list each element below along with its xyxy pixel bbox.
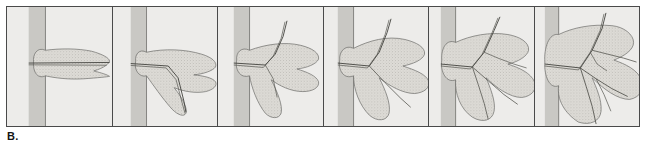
panel-stage-2 bbox=[113, 7, 219, 126]
stage-diagram-3 bbox=[218, 7, 323, 126]
panel-strip bbox=[6, 6, 640, 127]
stage-diagram-1 bbox=[7, 7, 112, 126]
channel-1a bbox=[29, 62, 110, 63]
panel-stage-5 bbox=[429, 7, 535, 126]
figure-container: B. bbox=[0, 0, 652, 153]
panel-stage-1 bbox=[7, 7, 113, 126]
panel-stage-3 bbox=[218, 7, 324, 126]
stage-diagram-6 bbox=[535, 7, 640, 126]
stage-diagram-4 bbox=[324, 7, 429, 126]
panel-stage-4 bbox=[324, 7, 430, 126]
delta-lobe-1 bbox=[33, 49, 109, 79]
figure-caption-label: B. bbox=[7, 131, 19, 142]
panel-stage-6 bbox=[535, 7, 640, 126]
stage-diagram-2 bbox=[113, 7, 218, 126]
stage-diagram-5 bbox=[429, 7, 534, 126]
